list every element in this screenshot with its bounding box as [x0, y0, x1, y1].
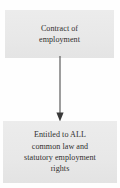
flowchart-node-contract: Contract of employment [5, 10, 114, 58]
flowchart-diagram: Contract of employment Entitled to ALL c… [0, 0, 120, 188]
flowchart-node-entitlement: Entitled to ALL common law and statutory… [3, 121, 117, 183]
flowchart-node-entitlement-label: Entitled to ALL common law and statutory… [3, 129, 117, 175]
flowchart-node-contract-label: Contract of employment [5, 23, 114, 46]
flowchart-arrow-down-icon [52, 56, 68, 123]
